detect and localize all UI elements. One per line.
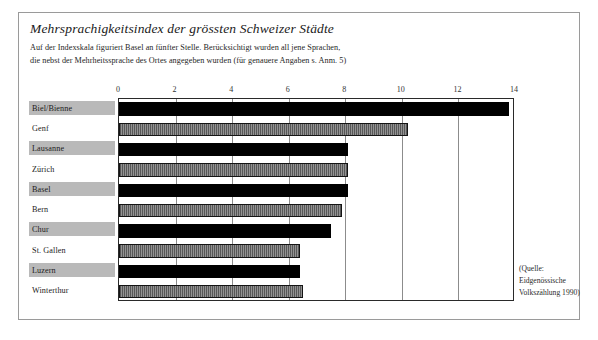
x-tick-label-12: 12: [453, 85, 461, 94]
bar-winterthur: [119, 285, 303, 298]
bar-chur: [119, 224, 331, 237]
category-label-text: Winterthur: [29, 286, 69, 295]
y-axis-category-labels: Biel/BienneGenfLausanneZürichBaselBernCh…: [29, 98, 115, 301]
category-label-bern: Bern: [29, 200, 115, 220]
x-axis-tick-labels: 02468101214: [118, 85, 514, 97]
category-label-text: St. Gallen: [29, 246, 66, 255]
category-label-text: Chur: [29, 225, 49, 234]
x-tick-label-6: 6: [286, 85, 290, 94]
category-label-text: Luzern: [29, 266, 56, 275]
category-label-luzern: Luzern: [29, 260, 115, 280]
bar-luzern: [119, 265, 300, 278]
bar-row: [119, 241, 513, 261]
bar-row: [119, 99, 513, 119]
bar-row: [119, 160, 513, 180]
bar-row: [119, 180, 513, 200]
figure-frame: Mehrsprachigkeitsindex der grössten Schw…: [18, 12, 580, 320]
bar-biel-bienne: [119, 102, 509, 115]
category-label-biel-bienne: Biel/Bienne: [29, 98, 115, 118]
bar-bern: [119, 204, 342, 217]
category-label-winterthur: Winterthur: [29, 281, 115, 301]
bar-basel: [119, 184, 348, 197]
bar-st-gallen: [119, 244, 300, 257]
category-label-chur: Chur: [29, 220, 115, 240]
x-tick-label-14: 14: [510, 85, 518, 94]
source-line-2: Eidgenössische: [519, 275, 579, 287]
bar-lausanne: [119, 143, 348, 156]
category-label-genf: Genf: [29, 118, 115, 138]
bar-genf: [119, 123, 408, 136]
bar-rows: [119, 99, 513, 300]
category-label-text: Basel: [29, 185, 51, 194]
x-tick-label-0: 0: [116, 85, 120, 94]
bar-row: [119, 261, 513, 281]
source-note: (Quelle: Eidgenössische Volkszählung 199…: [519, 263, 579, 298]
bar-z-rich: [119, 163, 348, 176]
category-label-lausanne: Lausanne: [29, 139, 115, 159]
category-label-z-rich: Zürich: [29, 159, 115, 179]
x-tick-label-4: 4: [229, 85, 233, 94]
x-tick-label-10: 10: [397, 85, 405, 94]
category-label-text: Zürich: [29, 165, 54, 174]
category-label-text: Genf: [29, 124, 49, 133]
category-label-text: Lausanne: [29, 144, 64, 153]
category-label-text: Bern: [29, 205, 48, 214]
category-label-text: Biel/Bienne: [29, 104, 72, 113]
bar-row: [119, 282, 513, 302]
plot-area: [118, 98, 514, 301]
x-tick-label-8: 8: [342, 85, 346, 94]
category-label-st-gallen: St. Gallen: [29, 240, 115, 260]
bar-row: [119, 119, 513, 139]
x-tick-label-2: 2: [173, 85, 177, 94]
source-line-1: (Quelle:: [519, 263, 579, 275]
bar-row: [119, 201, 513, 221]
bar-row: [119, 221, 513, 241]
category-label-basel: Basel: [29, 179, 115, 199]
chart-plot-wrapper: 02468101214 Biel/BienneGenfLausanneZüric…: [19, 13, 581, 321]
source-line-3: Volkszählung 1990): [519, 287, 579, 299]
bar-row: [119, 140, 513, 160]
